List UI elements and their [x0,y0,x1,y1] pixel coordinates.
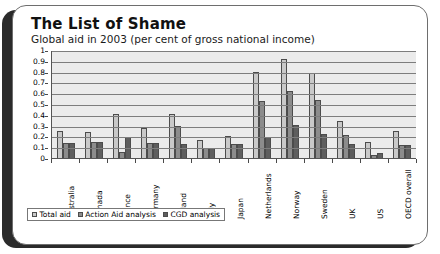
page-title: The List of Shame [31,15,186,33]
y-axis-tick-label: 0.7 [33,80,45,88]
gridline [52,137,416,138]
gridline [52,116,416,117]
y-axis-tick-mark [45,116,48,117]
x-axis-label: Netherlands [265,173,273,219]
screenshot-root: The List of Shame Global aid in 2003 (pe… [0,0,440,254]
gridline [52,148,416,149]
bar [181,144,187,158]
bar [377,153,383,158]
bar [97,142,103,158]
chart-legend: Total aidAction Aid analysisCGD analysis [27,208,225,221]
gridline [52,105,416,106]
x-axis-label: US [377,209,385,219]
gridline [52,62,416,63]
y-axis-tick-label: 0.4 [33,112,45,120]
y-axis-tick-mark [45,51,48,52]
y-axis-tick-mark [45,105,48,106]
y-axis-tick-mark [45,159,48,160]
bar [405,145,411,158]
x-axis-tick-mark [416,159,417,163]
y-axis-tick-mark [45,137,48,138]
legend-swatch-icon [32,212,37,217]
gridline [52,127,416,128]
y-axis-tick-label: 0.5 [33,101,45,109]
plot-area [51,51,416,159]
y-axis-tick-mark [45,148,48,149]
y-axis-tick-label: 0.6 [33,90,45,98]
y-axis-tick-label: 0.2 [33,134,45,142]
bar [237,144,243,158]
page-subtitle: Global aid in 2003 (per cent of gross na… [31,33,315,45]
gridline [52,83,416,84]
gridline [52,94,416,95]
legend-item: Action Aid analysis [78,210,156,219]
y-axis-tick-label: 0.1 [33,144,45,152]
x-axis-label: Norway [293,191,301,219]
x-axis-label: Sweden [321,189,329,219]
legend-label: CGD analysis [170,210,220,219]
legend-swatch-icon [163,212,168,217]
legend-label: Action Aid analysis [85,210,156,219]
legend-label: Total aid [40,210,71,219]
gridline [52,51,416,52]
legend-swatch-icon [78,212,83,217]
gridline [52,73,416,74]
legend-item: Total aid [32,210,71,219]
bar [349,144,355,158]
bar [293,125,299,158]
y-axis-tick-mark [45,73,48,74]
y-axis-tick-label: 0.8 [33,69,45,77]
bar [153,143,159,158]
y-axis-tick-label: 0.3 [33,123,45,131]
legend-item: CGD analysis [163,210,220,219]
y-axis-tick-mark [45,127,48,128]
y-axis-tick-mark [45,62,48,63]
chart-card: The List of Shame Global aid in 2003 (pe… [12,5,428,245]
x-axis-label: UK [349,209,357,219]
bar [209,148,215,158]
y-axis-tick-label: 0.9 [33,58,45,66]
y-axis-tick-mark [45,94,48,95]
bar [69,143,75,158]
x-axis-label: OECD overall [405,169,413,219]
x-axis-label: Japan [237,198,245,219]
y-axis-tick-mark [45,83,48,84]
y-axis: 00.10.20.30.40.50.60.70.80.91 [26,51,48,159]
bar-chart: 00.10.20.30.40.50.60.70.80.91 AustraliaC… [26,51,418,203]
